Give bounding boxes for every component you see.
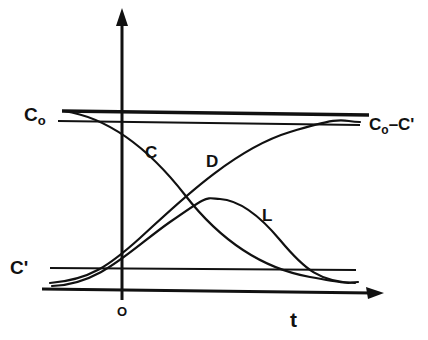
curve-c bbox=[64, 111, 358, 283]
label-curve-c: C bbox=[145, 143, 157, 162]
curve-l bbox=[52, 198, 355, 286]
label-time-axis: t bbox=[290, 308, 297, 331]
label-curve-d: D bbox=[206, 152, 218, 171]
c0-reference-line bbox=[62, 111, 369, 115]
y-axis-arrow-icon bbox=[116, 8, 128, 26]
label-curve-l: L bbox=[262, 206, 272, 225]
kinetics-diagram: Co Co–C' C' C D L O t bbox=[0, 0, 428, 340]
label-cprime: C' bbox=[10, 257, 28, 278]
label-origin: O bbox=[117, 304, 127, 319]
x-axis bbox=[42, 287, 384, 299]
label-c0-minus-cprime: Co–C' bbox=[369, 115, 414, 137]
label-c0: Co bbox=[24, 104, 46, 128]
x-axis-arrow-icon bbox=[366, 287, 384, 299]
curve-d bbox=[50, 120, 360, 283]
